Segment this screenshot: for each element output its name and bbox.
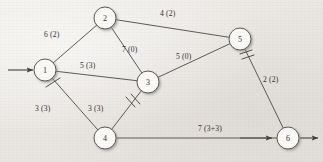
edge-3-5	[148, 39, 240, 82]
network-flow-diagram: 1 2 3 4 5 6 6 (2) 4 (2	[0, 0, 323, 162]
node-4-label: 4	[103, 134, 107, 143]
node-6-label: 6	[286, 134, 290, 143]
node-3-label: 3	[146, 78, 150, 87]
edge-label-1-3: 5 (3)	[80, 61, 96, 70]
edge-1-3	[45, 70, 148, 82]
node-1[interactable]: 1	[34, 59, 56, 81]
edge-label-2-3: 7 (0)	[122, 45, 138, 54]
edge-label-4-3: 3 (3)	[88, 104, 104, 113]
edge-label-5-6: 2 (2)	[263, 75, 279, 84]
node-4[interactable]: 4	[94, 127, 116, 149]
edge-2-5	[105, 18, 240, 39]
edge-5-6	[240, 39, 288, 138]
edge-lines	[45, 18, 288, 138]
node-3[interactable]: 3	[137, 71, 159, 93]
edge-label-3-5: 5 (0)	[176, 52, 192, 61]
edge-label-1-2: 6 (2)	[44, 30, 60, 39]
edge-label-1-4: 3 (3)	[35, 104, 51, 113]
edge-label-4-6: 7 (3+3)	[198, 124, 222, 133]
node-6[interactable]: 6	[277, 127, 299, 149]
node-5[interactable]: 5	[229, 28, 251, 50]
node-2[interactable]: 2	[94, 7, 116, 29]
node-2-label: 2	[103, 14, 107, 23]
node-5-label: 5	[238, 35, 242, 44]
edge-1-2	[45, 18, 105, 70]
edge-label-2-5: 4 (2)	[160, 9, 176, 18]
node-1-label: 1	[43, 66, 47, 75]
